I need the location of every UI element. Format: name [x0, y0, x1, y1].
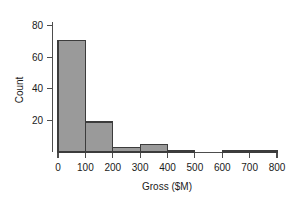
x-tick-label: 300: [132, 162, 149, 173]
x-tick-label: 400: [159, 162, 176, 173]
x-tick-label: 800: [269, 162, 286, 173]
histogram-figure: 20406080 0100200300400500600700800 Gross…: [0, 0, 287, 202]
histogram-svg: 20406080 0100200300400500600700800 Gross…: [0, 0, 287, 202]
x-axis-title: Gross ($M): [142, 181, 192, 192]
x-tick-label: 600: [214, 162, 231, 173]
y-tick-label: 60: [32, 52, 44, 63]
bar-group: [58, 40, 277, 152]
histogram-bar: [58, 40, 85, 152]
histogram-bar: [85, 122, 112, 152]
x-tick-label: 700: [241, 162, 258, 173]
x-tick-label: 200: [104, 162, 121, 173]
histogram-bar: [113, 147, 140, 152]
y-tick-label: 40: [32, 83, 44, 94]
histogram-bar: [140, 144, 167, 152]
x-tick-label: 100: [77, 162, 94, 173]
x-tick-label-group: 0100200300400500600700800: [55, 162, 286, 173]
y-tick-label: 20: [32, 115, 44, 126]
y-tick-group: [47, 26, 53, 121]
y-axis-title: Count: [14, 76, 25, 103]
y-tick-label-group: 20406080: [32, 20, 44, 126]
histogram-bar: [222, 150, 249, 152]
x-tick-group: [58, 153, 277, 159]
y-tick-label: 80: [32, 20, 44, 31]
histogram-bar: [168, 150, 195, 152]
x-tick-label: 0: [55, 162, 61, 173]
histogram-bar: [250, 150, 277, 152]
x-tick-label: 500: [187, 162, 204, 173]
